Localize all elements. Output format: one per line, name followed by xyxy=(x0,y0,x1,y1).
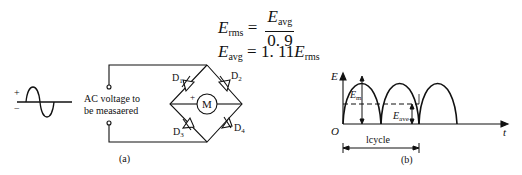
source-label-line1: AC voltage to xyxy=(84,93,140,104)
diode-d4-icon xyxy=(222,117,232,128)
peak-label: Em xyxy=(349,89,362,102)
x-axis-label: t xyxy=(503,126,507,138)
average-arrow xyxy=(410,104,414,124)
source-label-line2: be measaered xyxy=(84,105,138,116)
meter-label: M xyxy=(202,98,212,110)
sine-plus-sign: + xyxy=(14,87,20,98)
waveform-axes xyxy=(340,73,508,127)
cycle-label: lcycle xyxy=(366,134,390,145)
sine-minus-sign: − xyxy=(14,103,20,114)
diode-d4-label: D4 xyxy=(234,122,245,135)
y-axis-label: E xyxy=(330,70,338,82)
figure-canvas: + − M + D1 D2 D3 D4 AC voltage to be mea… xyxy=(0,0,522,175)
caption-a: (a) xyxy=(119,153,130,165)
origin-label: O xyxy=(331,125,339,137)
ac-sine-symbol xyxy=(17,87,72,117)
average-label: Eave xyxy=(392,110,409,123)
diode-d1-label: D1 xyxy=(172,72,183,85)
caption-b: (b) xyxy=(401,154,413,166)
meter-plus: + xyxy=(190,92,195,102)
diode-d2-label: D2 xyxy=(231,70,242,83)
